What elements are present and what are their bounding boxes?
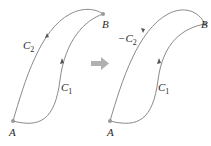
arrowhead-c1-right: [157, 58, 161, 64]
right-arrow-icon: [91, 57, 109, 70]
point-a-right: [108, 119, 112, 123]
curve-c2-left: [13, 9, 103, 121]
label-c1-left: C1: [61, 82, 72, 96]
left-panel: [11, 9, 105, 123]
point-a-left: [11, 119, 15, 123]
label-c2-left: C2: [23, 40, 34, 54]
arrowhead-neg-c2-right: [141, 28, 145, 33]
label-a-left: A: [9, 127, 16, 138]
label-c1-right: C1: [158, 82, 169, 96]
label-a-right: A: [107, 127, 114, 138]
label-b-right: B: [201, 19, 208, 30]
point-b-left: [101, 12, 105, 16]
label-neg-c2-right: −C2: [118, 33, 137, 47]
label-b-left: B: [102, 19, 109, 30]
right-panel: [108, 10, 207, 123]
curve-neg-c2-right: [110, 10, 205, 121]
curve-c1-left: [13, 14, 103, 123]
